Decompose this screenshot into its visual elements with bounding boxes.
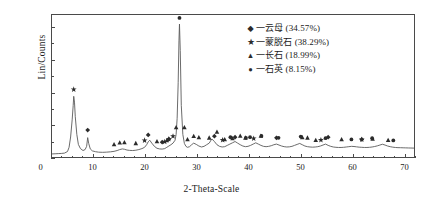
axis-tick — [51, 27, 55, 28]
axis-tick — [51, 109, 54, 110]
star-marker-icon: ★ — [245, 38, 256, 47]
legend-item-mica: ◆ 一 云母 (34.57%) — [245, 22, 410, 36]
axis-tick — [51, 125, 55, 126]
axis-tick — [103, 156, 104, 159]
axis-tick — [290, 156, 291, 159]
x-tick-label: 0 — [38, 162, 42, 172]
axis-tick — [61, 156, 62, 159]
axis-tick — [197, 154, 198, 158]
x-tick-label: 60 — [348, 162, 357, 172]
x-axis-title: 2-Theta-Scale — [0, 184, 423, 194]
axis-tick — [228, 156, 229, 159]
legend-dash: 一 — [256, 24, 265, 33]
diamond-marker-icon: ◆ — [245, 25, 256, 33]
axis-tick — [145, 154, 146, 158]
axis-tick — [280, 156, 281, 159]
legend-label-feldspar: 长石 (18.99%) — [265, 51, 320, 60]
xrd-chart-figure: Lin/Counts 01000200030004000 01020304050… — [0, 0, 423, 205]
axis-tick — [207, 156, 208, 159]
legend-item-montmorillonite: ★ 一 蒙脱石 (38.29%) — [245, 36, 410, 50]
axis-tick — [332, 156, 333, 159]
axis-tick — [259, 156, 260, 159]
axis-tick — [249, 154, 250, 158]
legend-item-quartz: ● 一 石英 (8.15%) — [245, 63, 410, 77]
legend-item-feldspar: ▲ 一 长石 (18.99%) — [245, 49, 410, 63]
axis-tick — [384, 156, 385, 159]
axis-tick — [373, 156, 374, 159]
axis-tick — [363, 156, 364, 159]
axis-tick — [51, 43, 54, 44]
x-tick-label: 30 — [192, 162, 201, 172]
axis-tick — [217, 156, 218, 159]
axis-tick — [353, 154, 354, 158]
axis-tick — [82, 156, 83, 159]
axis-tick — [269, 156, 270, 159]
axis-tick — [155, 156, 156, 159]
x-tick-label: 20 — [140, 162, 149, 172]
legend-dash: 一 — [256, 38, 265, 47]
axis-tick — [51, 60, 55, 61]
x-tick-label: 10 — [88, 162, 97, 172]
axis-tick — [238, 156, 239, 159]
legend-label-montmorillonite: 蒙脱石 (38.29%) — [265, 38, 329, 47]
triangle-marker-icon: ▲ — [245, 52, 256, 60]
axis-tick — [72, 156, 73, 159]
axis-tick — [311, 156, 312, 159]
axis-tick — [51, 76, 54, 77]
legend-dash: 一 — [256, 65, 265, 74]
x-tick-label: 70 — [400, 162, 409, 172]
legend-label-mica: 云母 (34.57%) — [265, 24, 320, 33]
axis-tick — [342, 156, 343, 159]
axis-tick — [415, 156, 416, 159]
axis-tick — [51, 156, 52, 159]
axis-tick — [405, 154, 406, 158]
circle-marker-icon: ● — [245, 66, 256, 74]
axis-tick — [394, 156, 395, 159]
legend-label-quartz: 石英 (8.15%) — [265, 65, 316, 74]
y-axis-ticks: 01000200030004000 — [0, 0, 51, 205]
legend-dash: 一 — [256, 51, 265, 60]
axis-tick — [186, 156, 187, 159]
axis-tick — [134, 156, 135, 159]
axis-tick — [165, 156, 166, 159]
axis-tick — [124, 156, 125, 159]
x-tick-label: 40 — [244, 162, 253, 172]
axis-tick — [51, 93, 55, 94]
axis-tick — [113, 156, 114, 159]
axis-tick — [51, 142, 54, 143]
axis-tick — [176, 156, 177, 159]
axis-tick — [301, 154, 302, 158]
axis-tick — [51, 158, 55, 159]
axis-tick — [321, 156, 322, 159]
axis-tick — [93, 154, 94, 158]
x-tick-label: 50 — [296, 162, 305, 172]
legend: ◆ 一 云母 (34.57%) ★ 一 蒙脱石 (38.29%) ▲ 一 长石 … — [245, 22, 410, 76]
